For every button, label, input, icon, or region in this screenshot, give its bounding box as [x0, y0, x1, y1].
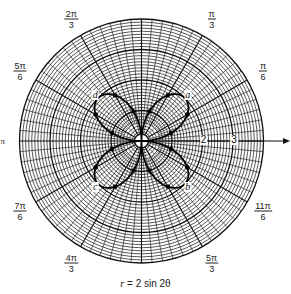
data-point [131, 168, 136, 173]
caption-rhs: 2 sin 2θ [136, 278, 171, 289]
data-point [147, 109, 152, 114]
caption-lhs: r [120, 278, 124, 289]
data-point [93, 165, 98, 170]
petal-label-b: b [184, 182, 191, 192]
arrow-head-icon [283, 138, 290, 144]
angle-label-150: 5π6 [13, 60, 26, 81]
data-point [169, 147, 174, 152]
radius-label-2: 2 [200, 135, 208, 145]
petal-label-a: a [184, 90, 191, 100]
data-point [131, 109, 136, 114]
angle-label-300: 5π3 [205, 252, 218, 273]
data-point [185, 165, 190, 170]
radius-label-3: 3 [230, 135, 238, 145]
data-point [110, 147, 115, 152]
polar-plot [0, 0, 291, 294]
data-point [166, 93, 171, 98]
data-point [185, 112, 190, 117]
data-point [93, 112, 98, 117]
data-point [166, 184, 171, 189]
angle-label-30: π6 [259, 60, 267, 81]
data-point [110, 131, 115, 136]
data-point [113, 93, 118, 98]
angle-label-210: 7π6 [13, 201, 26, 222]
data-point [147, 168, 152, 173]
data-point [169, 131, 174, 136]
petal-label-d: d [92, 90, 99, 100]
angle-label-pi: π [0, 136, 5, 146]
angle-label-120: 2π3 [65, 9, 78, 30]
equation-caption: r = 2 sin 2θ [0, 278, 291, 289]
data-point [113, 184, 118, 189]
angle-label-60: π3 [208, 9, 216, 30]
angle-label-240: 4π3 [65, 252, 78, 273]
angle-label-330: 11π6 [254, 201, 272, 222]
petal-label-c: c [92, 182, 98, 192]
